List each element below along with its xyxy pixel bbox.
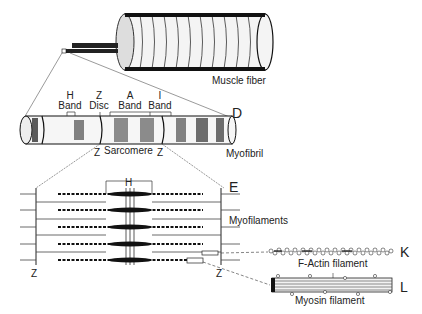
- sarcomere-label: Sarcomere: [104, 146, 153, 156]
- myosin-letter-l: L: [400, 280, 408, 294]
- a-band-word: Band: [117, 101, 143, 111]
- sarcomere-z-right: Z: [157, 148, 163, 158]
- myofibril-letter-d: D: [232, 106, 242, 120]
- h-band-word: Band: [57, 101, 83, 111]
- actin-letter-k: K: [400, 245, 409, 259]
- z-line-right-label: Z: [216, 269, 222, 279]
- z-disc-word: Disc: [86, 101, 112, 111]
- sarcomere-illustration: [20, 181, 240, 265]
- h-zone-label: H: [125, 178, 132, 188]
- myosin-label: Myosin filament: [295, 296, 364, 306]
- muscle-fiber-label: Muscle fiber: [212, 76, 266, 86]
- myofibril-label: Myofibril: [226, 149, 263, 159]
- myosin-filament-illustration: [271, 274, 392, 295]
- sarcomere-letter-e: E: [229, 180, 238, 194]
- i-band-word: Band: [147, 101, 173, 111]
- actin-filament-illustration: [269, 248, 393, 255]
- myofibril-illustration: [20, 112, 236, 144]
- z-line-left-label: Z: [31, 269, 37, 279]
- sarcomere-z-left: Z: [94, 148, 100, 158]
- muscle-structure-diagram: Muscle fiber H Band Z Disc A Band I Band…: [0, 0, 422, 314]
- myofilaments-label: Myofilaments: [229, 216, 288, 226]
- actin-label: F-Actin filament: [298, 259, 367, 269]
